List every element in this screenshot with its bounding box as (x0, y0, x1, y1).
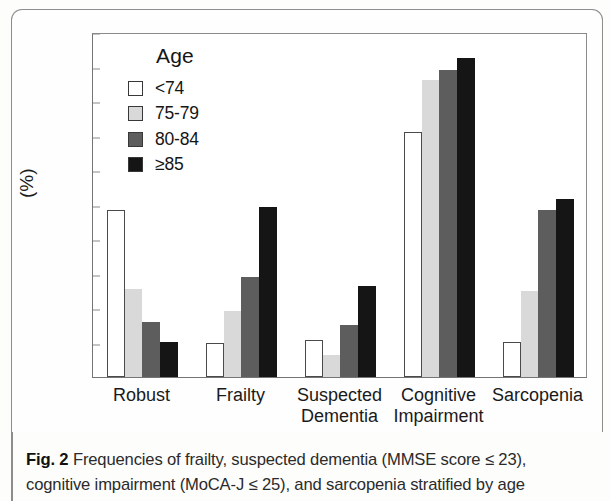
legend-label: ≥85 (155, 154, 183, 175)
bar (538, 210, 556, 377)
bar (503, 342, 521, 377)
y-axis-tick-mark (93, 310, 100, 311)
bar (142, 322, 160, 377)
legend-label: 75-79 (155, 103, 199, 124)
y-axis-tick-mark (93, 344, 100, 345)
bar (160, 342, 178, 377)
bar (422, 80, 440, 377)
figure-caption-text: Frequencies of frailty, suspected dement… (26, 450, 526, 494)
y-axis-tick-mark (93, 137, 100, 138)
y-axis-tick-mark (93, 34, 100, 35)
bar (556, 199, 574, 377)
bar (457, 58, 475, 377)
bar (340, 325, 358, 377)
legend-swatch (128, 157, 143, 172)
bar (206, 343, 224, 378)
legend-entry: 80-84 (128, 130, 278, 148)
figure-caption-label: Fig. 2 (26, 450, 68, 469)
bar (404, 132, 422, 377)
caption-left-rule (11, 432, 13, 501)
bar (439, 70, 457, 377)
y-axis-tick-mark (93, 241, 100, 242)
bar (521, 291, 539, 377)
bar (241, 277, 259, 377)
y-axis-tick-mark (93, 103, 100, 104)
bar-group (404, 34, 474, 377)
y-axis-tick-mark (93, 275, 100, 276)
legend-label: <74 (155, 78, 184, 99)
bar (259, 207, 277, 377)
legend-swatch (128, 106, 143, 121)
y-axis-tick-mark (93, 206, 100, 207)
legend-swatch (128, 132, 143, 147)
bar (305, 340, 323, 377)
legend: Age <7475-7980-84≥85 (128, 44, 278, 181)
bar-chart: (%) 0102030405060708090100 RobustFrailty… (0, 0, 610, 435)
legend-entries: <7475-7980-84≥85 (128, 79, 278, 174)
figure-caption: Fig. 2 Frequencies of frailty, suspected… (26, 447, 592, 497)
bar (358, 286, 376, 377)
bar-group (305, 34, 375, 377)
y-axis-label: (%) (16, 168, 38, 198)
bar (125, 289, 143, 377)
bar (323, 355, 341, 377)
bar-group (503, 34, 573, 377)
y-axis-tick-mark (93, 68, 100, 69)
bar (107, 210, 125, 377)
legend-entry: ≥85 (128, 156, 278, 174)
legend-title: Age (156, 44, 278, 68)
y-axis-tick-mark (93, 172, 100, 173)
legend-swatch (128, 81, 143, 96)
legend-entry: 75-79 (128, 105, 278, 123)
x-axis-category-label: Sarcopenia (474, 385, 601, 406)
bar (224, 311, 242, 377)
figure-page: (%) 0102030405060708090100 RobustFrailty… (0, 0, 610, 501)
legend-label: 80-84 (155, 129, 199, 150)
legend-entry: <74 (128, 79, 278, 97)
